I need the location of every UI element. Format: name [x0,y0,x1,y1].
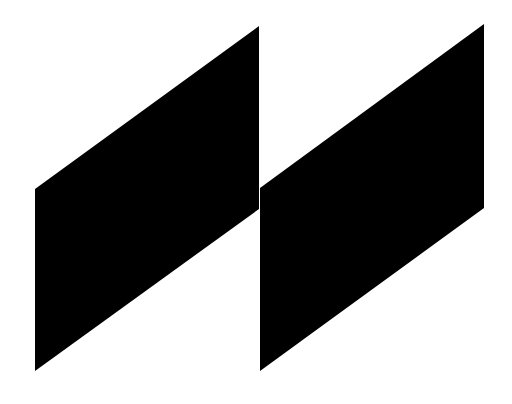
logo-canvas [0,0,512,404]
parallelogram-logo-icon [0,0,512,404]
